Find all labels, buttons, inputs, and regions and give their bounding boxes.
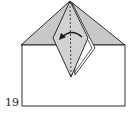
step-number: 19 xyxy=(5,96,19,109)
origami-diagram xyxy=(0,0,130,116)
